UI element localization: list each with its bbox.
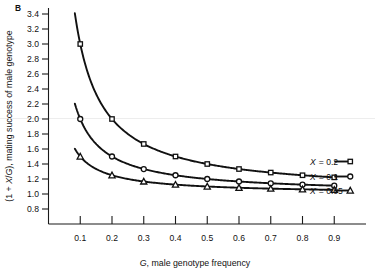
panel-label: B bbox=[15, 3, 21, 13]
marker-triangle bbox=[141, 178, 147, 184]
marker-circle bbox=[110, 154, 115, 159]
x-tick-label: 0.8 bbox=[297, 233, 309, 243]
x-tick-label: 0.2 bbox=[106, 233, 118, 243]
marker-circle bbox=[348, 174, 353, 179]
marker-square bbox=[78, 42, 82, 46]
legend: X= 0.2X= 0.1X= 0.05 bbox=[309, 157, 353, 196]
y-tick-label: 0.8 bbox=[27, 204, 39, 214]
y-axis-title-rest: ), mating success of male genotype bbox=[4, 30, 14, 168]
x-tick-label: 0.1 bbox=[74, 233, 86, 243]
marker-square bbox=[173, 154, 177, 158]
legend-label: X= 0.05 bbox=[309, 186, 343, 196]
marker-triangle bbox=[299, 186, 305, 192]
y-tick-label: 1.4 bbox=[27, 159, 39, 169]
marker-square bbox=[348, 159, 352, 163]
x-tick-label: 0.3 bbox=[138, 233, 150, 243]
y-tick-label: 2.2 bbox=[27, 99, 39, 109]
marker-square bbox=[205, 162, 209, 166]
y-tick-label: 2.8 bbox=[27, 54, 39, 64]
marker-triangle bbox=[204, 183, 210, 189]
x-tick-label: 0.7 bbox=[265, 233, 277, 243]
marker-square bbox=[237, 167, 241, 171]
marker-square bbox=[142, 142, 146, 146]
marker-circle bbox=[205, 177, 210, 182]
chart-svg: B 0.81.01.21.41.61.82.02.22.42.62.83.03.… bbox=[0, 0, 375, 273]
y-tick-label: 3.0 bbox=[27, 39, 39, 49]
data-markers bbox=[77, 42, 337, 193]
y-tick-label: 2.4 bbox=[27, 84, 39, 94]
marker-circle bbox=[141, 167, 146, 172]
y-tick-label: 3.4 bbox=[27, 9, 39, 19]
x-tick-labels: 0.10.20.30.40.50.60.70.80.9 bbox=[74, 233, 340, 243]
y-tick-label: 1.2 bbox=[27, 174, 39, 184]
legend-label: X= 0.1 bbox=[309, 172, 338, 182]
marker-square bbox=[110, 117, 114, 121]
legend-label: X= 0.2 bbox=[309, 157, 338, 167]
marker-circle bbox=[237, 179, 242, 184]
x-tick-label: 0.9 bbox=[328, 233, 340, 243]
marker-triangle bbox=[109, 172, 115, 178]
y-axis-title: (1 + X/G), mating success of male genoty… bbox=[4, 30, 14, 202]
marker-triangle bbox=[172, 182, 178, 188]
x-axis-title: G, male genotype frequency bbox=[140, 258, 251, 268]
y-axis-ticks bbox=[42, 14, 49, 209]
y-tick-label: 2.0 bbox=[27, 114, 39, 124]
x-axis-title-rest: , male genotype frequency bbox=[147, 258, 251, 268]
x-tick-label: 0.5 bbox=[201, 233, 213, 243]
curve-circle bbox=[75, 104, 334, 186]
y-tick-label: 1.8 bbox=[27, 129, 39, 139]
marker-circle bbox=[173, 173, 178, 178]
marker-square bbox=[269, 170, 273, 174]
marker-triangle bbox=[236, 185, 242, 191]
figure-panel-b: B 0.81.01.21.41.61.82.02.22.42.62.83.03.… bbox=[0, 0, 375, 273]
curve-square bbox=[75, 13, 334, 177]
x-tick-label: 0.4 bbox=[170, 233, 182, 243]
y-tick-label: 1.6 bbox=[27, 144, 39, 154]
y-tick-label: 2.6 bbox=[27, 69, 39, 79]
y-tick-labels: 0.81.01.21.41.61.82.02.22.42.62.83.03.23… bbox=[27, 9, 39, 214]
y-tick-label: 3.2 bbox=[27, 24, 39, 34]
marker-circle bbox=[78, 117, 83, 122]
marker-triangle bbox=[347, 187, 353, 193]
marker-triangle bbox=[268, 186, 274, 192]
marker-square bbox=[300, 173, 304, 177]
x-tick-label: 0.6 bbox=[233, 233, 245, 243]
y-tick-label: 1.0 bbox=[27, 189, 39, 199]
x-axis-ticks bbox=[80, 216, 334, 224]
